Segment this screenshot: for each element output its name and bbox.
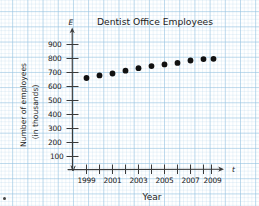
x-tick-label-2005: 2005: [155, 176, 174, 185]
data-point: [97, 73, 103, 79]
y-axis-title-line1: Number of employees: [19, 63, 28, 147]
data-point: [110, 71, 116, 77]
x-tick-label-2001: 2001: [103, 176, 122, 185]
x-axis-variable-label: t: [232, 165, 236, 174]
data-point: [136, 65, 142, 71]
y-tick-label-200: 200: [48, 138, 62, 147]
data-points: [84, 56, 217, 81]
data-point: [149, 63, 155, 69]
data-point: [84, 75, 90, 81]
data-point: [162, 62, 168, 68]
data-point: [123, 68, 129, 74]
x-tick-label-1999: 1999: [77, 176, 96, 185]
scatter-plot: E t 900 800 700 600 500 400 300 200 100: [0, 0, 259, 206]
data-point: [201, 56, 207, 62]
x-tick-label-2009: 2009: [203, 176, 222, 185]
chart-title: Dentist Office Employees: [97, 16, 213, 27]
x-tick-label-2007: 2007: [181, 176, 200, 185]
y-tick-label-900: 900: [48, 40, 62, 49]
data-point: [188, 58, 194, 64]
x-axis-tick-labels: 1999 2001 2003 2005 2007 2009: [77, 176, 222, 185]
y-tick-label-400: 400: [48, 110, 62, 119]
y-axis-title-line2: (in thousands): [31, 85, 40, 140]
y-tick-label-600: 600: [48, 82, 62, 91]
x-axis-title: Year: [141, 192, 161, 202]
y-tick-label-100: 100: [50, 152, 64, 161]
data-point: [211, 56, 217, 62]
y-tick-label-700: 700: [48, 68, 62, 77]
axis-break-icon: [71, 166, 75, 172]
y-tick-label-500: 500: [48, 96, 62, 105]
y-axis-tick-labels: 900 800 700 600 500 400 300 200 100: [48, 40, 64, 161]
y-tick-label-800: 800: [48, 54, 62, 63]
x-tick-label-2003: 2003: [129, 176, 148, 185]
y-axis-variable-label: E: [69, 18, 74, 27]
y-tick-label-300: 300: [48, 124, 62, 133]
data-point: [175, 60, 181, 66]
